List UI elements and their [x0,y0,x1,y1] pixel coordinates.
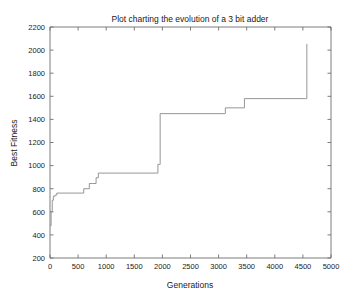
y-axis-title: Best Fitness [9,120,19,167]
x-tick-label: 5000 [323,262,340,271]
chart-canvas: Plot charting the evolution of a 3 bit a… [0,0,360,299]
y-tick-label: 400 [32,231,45,240]
chart-figure: Plot charting the evolution of a 3 bit a… [0,0,360,299]
y-tick-label: 1600 [28,92,45,101]
x-tick-label: 500 [72,262,85,271]
x-tick-label: 3500 [238,262,255,271]
y-tick-label: 1800 [28,69,45,78]
x-tick-label: 2000 [154,262,171,271]
x-tick-label: 1500 [126,262,143,271]
y-tick-label: 1400 [28,115,45,124]
x-tick-label: 3000 [210,262,227,271]
chart-title: Plot charting the evolution of a 3 bit a… [112,14,269,24]
x-tick-label: 4500 [295,262,312,271]
y-tick-label: 2000 [28,46,45,55]
y-tick-label: 2200 [28,23,45,32]
x-tick-label: 1000 [98,262,115,271]
y-tick-label: 1200 [28,138,45,147]
y-tick-label: 600 [32,208,45,217]
x-tick-label: 0 [48,262,52,271]
y-tick-label: 1000 [28,161,45,170]
x-tick-label: 4000 [266,262,283,271]
x-axis-title: Generations [167,280,213,290]
figure-background [0,0,360,299]
x-tick-label: 2500 [182,262,199,271]
y-tick-label: 200 [32,254,45,263]
y-tick-label: 800 [32,185,45,194]
